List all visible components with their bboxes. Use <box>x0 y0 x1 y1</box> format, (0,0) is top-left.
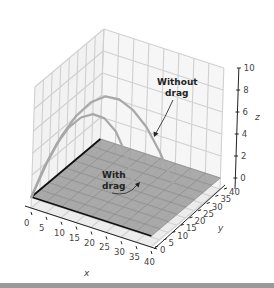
annotation-without-drag-line2: drag <box>165 88 188 98</box>
x-tick-label: 10 <box>54 228 65 238</box>
z-tick-label: 6 <box>242 107 247 117</box>
x-tick <box>136 246 137 249</box>
annotation-with-drag-line1: With <box>102 170 126 180</box>
x-tick <box>31 212 32 215</box>
z-tick-label: 10 <box>244 63 255 73</box>
x-tick-label: 40 <box>144 257 155 267</box>
x-tick <box>121 241 122 244</box>
3d-trajectory-chart: 051015202530354005101520253035400246810 … <box>0 0 274 288</box>
annotation-without-drag-line1: Without <box>157 77 198 87</box>
bottom-divider <box>0 283 274 288</box>
x-tick-label: 0 <box>24 218 29 228</box>
z-tick-label: 8 <box>243 85 248 95</box>
x-tick <box>106 236 107 239</box>
z-axis-line <box>235 68 239 189</box>
x-tick <box>151 251 152 254</box>
z-tick-label: 2 <box>241 151 246 161</box>
y-tick <box>207 203 210 204</box>
y-tick-label: 0 <box>160 245 165 255</box>
y-tick <box>164 239 167 240</box>
y-tick-label: 40 <box>229 187 240 197</box>
x-tick-label: 20 <box>84 238 95 248</box>
z-axis-label: z <box>254 112 260 122</box>
z-tick-label: 4 <box>242 129 247 139</box>
y-tick <box>215 195 218 196</box>
y-tick-label: 5 <box>169 238 174 248</box>
z-tick-label: 0 <box>240 173 245 183</box>
y-tick <box>198 210 201 211</box>
y-tick <box>155 246 158 247</box>
x-tick-label: 35 <box>129 252 140 262</box>
x-tick-label: 15 <box>69 233 80 243</box>
x-tick <box>76 227 77 230</box>
x-tick-label: 30 <box>114 247 125 257</box>
x-axis-label: x <box>83 268 90 278</box>
annotation-with-drag-line2: drag <box>102 181 125 191</box>
x-tick-label: 5 <box>39 223 44 233</box>
x-tick <box>46 217 47 220</box>
y-axis-label: y <box>217 223 224 233</box>
x-tick <box>91 232 92 235</box>
x-tick-label: 25 <box>99 242 110 252</box>
y-tick <box>224 188 227 189</box>
x-tick <box>61 222 62 225</box>
